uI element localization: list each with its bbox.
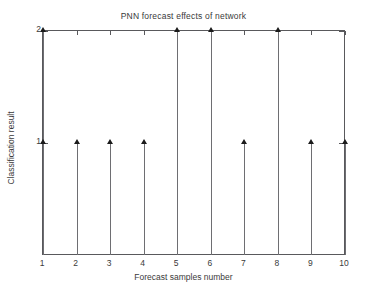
stem-line	[77, 143, 78, 255]
x-axis-tick-label: 2	[66, 258, 86, 268]
x-axis-tick-label: 10	[334, 258, 354, 268]
stem-line	[211, 31, 212, 255]
x-axis-tick-label: 7	[233, 258, 253, 268]
stem-line	[345, 143, 346, 255]
x-axis-tick-top	[345, 31, 346, 35]
chart-figure: PNN forecast effects of network Classifi…	[0, 0, 367, 296]
y-axis-label: Classification result	[2, 0, 20, 296]
x-axis-tick-label: 4	[133, 258, 153, 268]
data-point-marker	[308, 139, 314, 144]
data-point-marker	[275, 27, 281, 32]
x-axis-tick-label: 5	[166, 258, 186, 268]
stem-line	[177, 31, 178, 255]
x-axis-tick-label: 3	[99, 258, 119, 268]
x-axis-tick-label: 8	[267, 258, 287, 268]
stem-line	[278, 31, 279, 255]
y-axis-tick-right	[339, 31, 344, 32]
x-axis-tick-top	[144, 31, 145, 35]
x-axis-tick-label: 9	[300, 258, 320, 268]
data-point-marker	[141, 139, 147, 144]
x-axis-tick-top	[244, 31, 245, 35]
x-axis-tick-label: 6	[200, 258, 220, 268]
stem-line	[144, 143, 145, 255]
x-axis-tick-top	[110, 31, 111, 35]
x-axis-tick-top	[77, 31, 78, 35]
data-point-marker	[174, 27, 180, 32]
x-axis-tick-label: 1	[32, 258, 52, 268]
stem-line	[244, 143, 245, 255]
x-axis-tick-top	[311, 31, 312, 35]
y-axis-label-text: Classification result	[6, 111, 16, 184]
data-point-marker	[74, 139, 80, 144]
data-point-marker	[107, 139, 113, 144]
stem-line	[311, 143, 312, 255]
y-axis-tick-label: 1	[19, 136, 41, 146]
x-axis-label: Forecast samples number	[0, 272, 367, 282]
chart-title: PNN forecast effects of network	[0, 11, 367, 21]
stem-line	[110, 143, 111, 255]
plot-area	[42, 30, 345, 255]
data-point-marker	[241, 139, 247, 144]
data-point-marker	[208, 27, 214, 32]
y-axis-tick-label: 2	[19, 24, 41, 34]
data-point-marker	[342, 139, 348, 144]
